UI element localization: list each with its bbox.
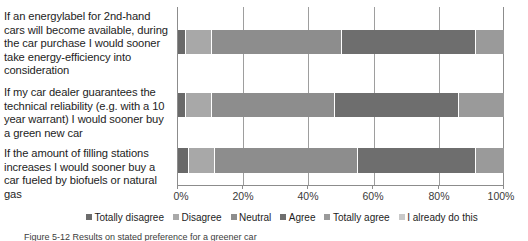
x-axis-tick — [177, 185, 178, 189]
legend-label: Totally disagree — [95, 212, 164, 223]
figure-stacked-bar-chart: If an energylabel for 2nd-hand cars will… — [0, 0, 528, 241]
bar-segment — [211, 93, 335, 117]
plot-area — [177, 7, 504, 185]
legend-label: Agree — [289, 212, 316, 223]
x-axis-tick — [503, 185, 504, 189]
x-axis-line — [177, 185, 504, 186]
legend-item: Disagree — [173, 212, 222, 223]
legend-swatch-icon — [173, 214, 179, 220]
bar-segment — [211, 30, 341, 54]
legend-label: Totally agree — [333, 212, 390, 223]
x-axis-tick-label-20: 20% — [232, 190, 253, 202]
bar-segment — [357, 148, 474, 173]
legend-swatch-icon — [280, 214, 286, 220]
x-axis-tick-label-60: 60% — [362, 190, 383, 202]
legend-label: I already do this — [407, 212, 478, 223]
legend-item: Neutral — [231, 212, 272, 223]
x-axis-tick-label-100: 100% — [488, 190, 515, 202]
bar-segment — [475, 30, 504, 54]
bar-segment — [334, 93, 458, 117]
x-axis-tick-label-0: 0% — [173, 190, 188, 202]
bar-row — [178, 30, 504, 54]
stacked-bar-2 — [178, 148, 504, 173]
bar-segment — [458, 93, 504, 117]
bar-segment — [341, 30, 475, 54]
bar-segment — [178, 148, 188, 173]
chart-legend: Totally disagreeDisagreeNeutralAgreeTota… — [86, 210, 526, 224]
legend-item: Totally agree — [324, 212, 389, 223]
figure-caption: Figure 5-12 Results on stated preference… — [24, 232, 524, 241]
legend-label: Disagree — [181, 212, 221, 223]
bar-segment — [475, 148, 504, 173]
bar-segment — [188, 148, 214, 173]
bar-segment — [185, 30, 211, 54]
category-axis-labels: If an energylabel for 2nd-hand cars will… — [4, 4, 170, 184]
stacked-bar-0 — [178, 30, 504, 54]
bar-row — [178, 93, 504, 117]
category-label-0: If an energylabel for 2nd-hand cars will… — [4, 10, 170, 78]
stacked-bar-1 — [178, 93, 504, 117]
legend-swatch-icon — [399, 214, 405, 220]
x-axis-tick — [372, 185, 373, 189]
legend-item: Totally disagree — [86, 212, 164, 223]
bar-row — [178, 148, 504, 173]
legend-item: I already do this — [399, 212, 478, 223]
x-axis-tick — [242, 185, 243, 189]
x-axis-tick — [307, 185, 308, 189]
x-axis-tick-label-80: 80% — [428, 190, 449, 202]
legend-swatch-icon — [231, 214, 237, 220]
category-label-1: If my car dealer guarantees the technica… — [4, 86, 170, 140]
x-axis-tick — [438, 185, 439, 189]
legend-swatch-icon — [324, 214, 330, 220]
x-axis-tick-label-40: 40% — [297, 190, 318, 202]
category-label-2: If the amount of filling stations increa… — [4, 147, 170, 201]
bar-segment — [185, 93, 211, 117]
legend-item: Agree — [280, 212, 315, 223]
legend-swatch-icon — [86, 214, 92, 220]
legend-label: Neutral — [239, 212, 271, 223]
bar-segment — [214, 148, 357, 173]
